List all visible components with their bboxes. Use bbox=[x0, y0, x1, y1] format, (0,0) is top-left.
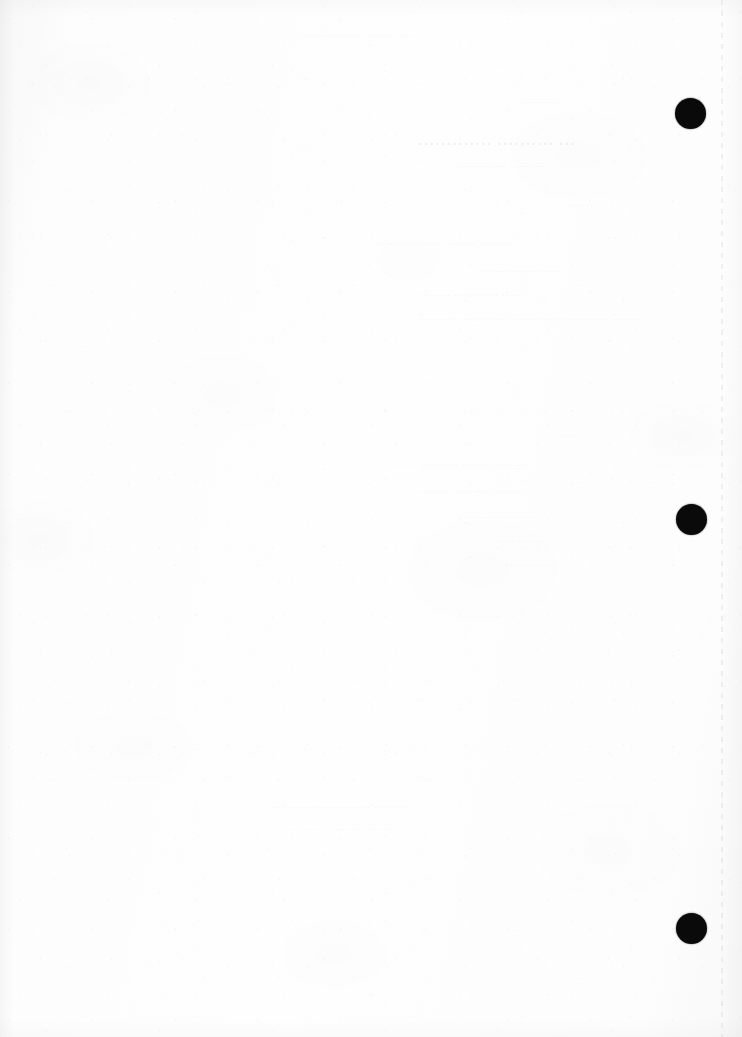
page-edge-vignette bbox=[0, 0, 742, 1037]
scanned-page: ····· ········· ······ ·················… bbox=[0, 0, 742, 1037]
